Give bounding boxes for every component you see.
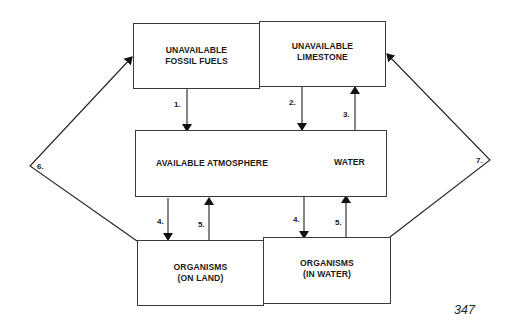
flow-arrow-7 [387,54,490,237]
atmosphere-label: AVAILABLE ATMOSPHERE [156,158,268,169]
label-7: 7. [476,156,483,165]
fossil-fuels-label: UNAVAILABLE FOSSIL FUELS [165,45,228,67]
box-atmosphere-water: AVAILABLE ATMOSPHERE WATER [135,130,387,197]
label-6: 6. [37,162,44,171]
organisms-land-label: ORGANISMS (ON LAND) [174,262,228,284]
label-4-land: 4. [157,217,164,226]
label-4-water: 4. [293,215,300,224]
label-3: 3. [343,110,350,119]
box-limestone: UNAVAILABLE LIMESTONE [259,21,386,87]
box-organisms-land: ORGANISMS (ON LAND) [137,240,264,306]
label-1: 1. [174,100,181,109]
flow-arrow-6 [30,57,137,241]
water-label: WATER [334,157,365,168]
limestone-label: UNAVAILABLE LIMESTONE [292,41,353,63]
organisms-water-label: ORGANISMS (IN WATER) [300,258,354,280]
page-number: 347 [454,303,475,317]
box-fossil-fuels: UNAVAILABLE FOSSIL FUELS [133,23,260,89]
box-organisms-water: ORGANISMS (IN WATER) [263,237,391,304]
carbon-cycle-diagram: UNAVAILABLE FOSSIL FUELS UNAVAILABLE LIM… [0,0,516,331]
label-2: 2. [289,98,296,107]
label-5-land: 5. [198,220,205,229]
label-5-water: 5. [335,218,342,227]
